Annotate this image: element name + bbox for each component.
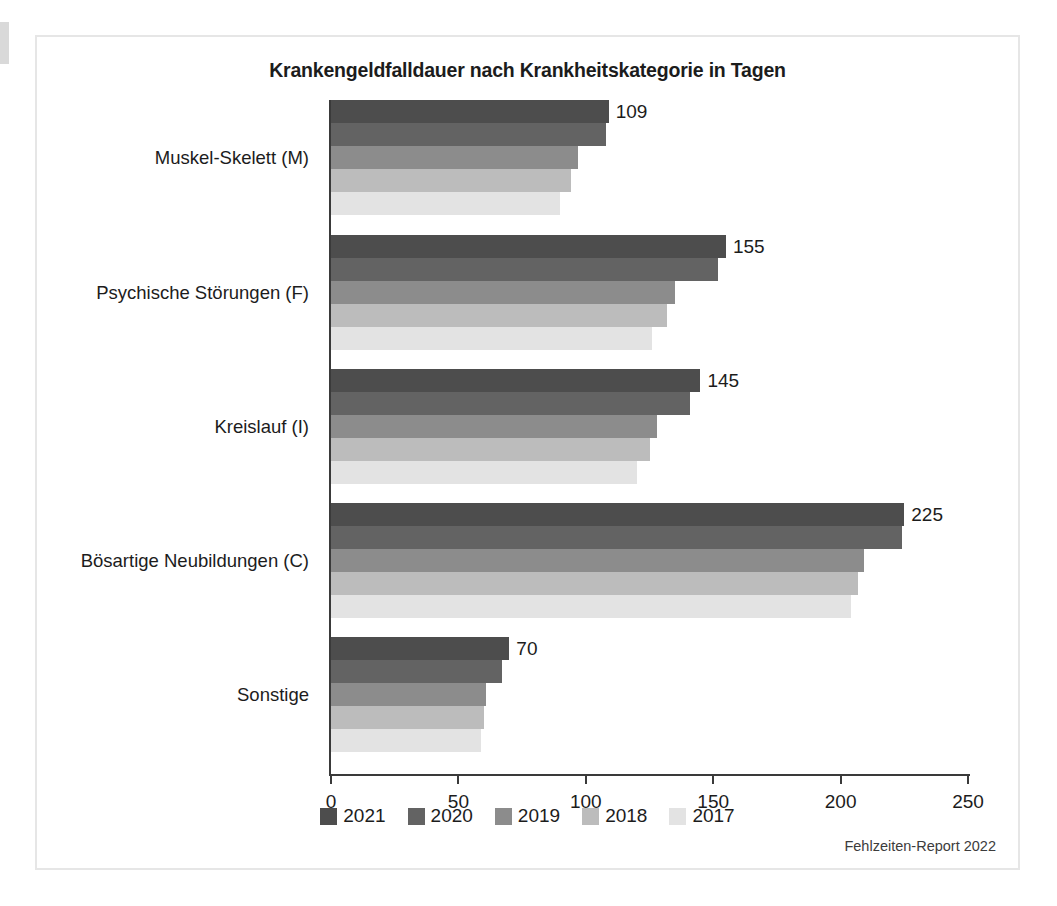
bar-group: 145Kreislauf (I) [331, 369, 968, 484]
bar-row: Psychische Störungen (F) [331, 281, 968, 304]
bar-row: 70 [331, 637, 968, 660]
bar-value-label: 109 [609, 100, 648, 122]
bar-row: Muskel-Skelett (M) [331, 146, 968, 169]
legend-item-2018[interactable]: 2018 [582, 805, 647, 827]
bar-row: 145 [331, 369, 968, 392]
bar-row: Sonstige [331, 683, 968, 706]
source-note: Fehlzeiten-Report 2022 [844, 838, 996, 854]
bar-2018[interactable] [331, 304, 667, 327]
bar-2019[interactable] [331, 146, 578, 169]
x-axis-line [329, 774, 970, 776]
bar-2020[interactable] [331, 123, 606, 146]
category-label: Sonstige [237, 684, 309, 706]
bar-row [331, 304, 968, 327]
x-tick-mark-250 [967, 775, 969, 784]
bar-row [331, 660, 968, 683]
bar-2017[interactable] [331, 729, 481, 752]
legend-item-2019[interactable]: 2019 [495, 805, 560, 827]
bar-row [331, 595, 968, 618]
bar-2021[interactable] [331, 637, 509, 660]
legend-label: 2019 [518, 805, 560, 827]
bar-2021[interactable] [331, 100, 609, 123]
bar-row [331, 123, 968, 146]
bar-group: 70Sonstige [331, 637, 968, 752]
bar-2018[interactable] [331, 706, 484, 729]
bar-2017[interactable] [331, 461, 637, 484]
bar-group: 155Psychische Störungen (F) [331, 235, 968, 350]
bar-row [331, 392, 968, 415]
chart-title: Krankengeldfalldauer nach Krankheitskate… [37, 59, 1018, 82]
bar-row: Kreislauf (I) [331, 415, 968, 438]
bar-2018[interactable] [331, 169, 571, 192]
legend-label: 2017 [692, 805, 734, 827]
legend-label: 2020 [431, 805, 473, 827]
bar-row [331, 169, 968, 192]
bar-2021[interactable] [331, 235, 726, 258]
legend-label: 2018 [605, 805, 647, 827]
legend-swatch-icon [495, 808, 512, 825]
legend-swatch-icon [582, 808, 599, 825]
bar-2019[interactable] [331, 281, 675, 304]
legend-swatch-icon [669, 808, 686, 825]
bar-row [331, 192, 968, 215]
scan-edge-artifact [0, 22, 9, 64]
category-label: Bösartige Neubildungen (C) [81, 550, 309, 572]
bar-2020[interactable] [331, 660, 502, 683]
plot-area: 050100150200250 109Muskel-Skelett (M)155… [331, 100, 968, 775]
bar-row [331, 327, 968, 350]
bar-row [331, 461, 968, 484]
category-label: Kreislauf (I) [214, 416, 309, 438]
category-label: Muskel-Skelett (M) [155, 147, 309, 169]
chart-legend: 20212020201920182017 [37, 805, 1018, 827]
bar-row [331, 258, 968, 281]
legend-label: 2021 [343, 805, 385, 827]
x-tick-mark-200 [840, 775, 842, 784]
bar-row [331, 526, 968, 549]
bar-row [331, 729, 968, 752]
bar-row [331, 706, 968, 729]
chart-figure-frame: Krankengeldfalldauer nach Krankheitskate… [35, 35, 1020, 870]
bar-group: 225Bösartige Neubildungen (C) [331, 503, 968, 618]
bar-row: Bösartige Neubildungen (C) [331, 549, 968, 572]
bar-2020[interactable] [331, 526, 902, 549]
bar-2021[interactable] [331, 503, 904, 526]
legend-swatch-icon [408, 808, 425, 825]
legend-item-2017[interactable]: 2017 [669, 805, 734, 827]
legend-swatch-icon [320, 808, 337, 825]
bar-row: 155 [331, 235, 968, 258]
bar-2019[interactable] [331, 549, 864, 572]
x-tick-mark-100 [585, 775, 587, 784]
bar-2019[interactable] [331, 415, 657, 438]
bar-value-label: 145 [700, 369, 739, 391]
bar-row [331, 438, 968, 461]
bar-2019[interactable] [331, 683, 486, 706]
bar-value-label: 155 [726, 235, 765, 257]
bar-row: 225 [331, 503, 968, 526]
bar-2018[interactable] [331, 438, 650, 461]
bar-2017[interactable] [331, 192, 560, 215]
bar-2020[interactable] [331, 392, 690, 415]
x-tick-mark-50 [457, 775, 459, 784]
bar-value-label: 70 [509, 637, 537, 659]
bar-2021[interactable] [331, 369, 700, 392]
category-label: Psychische Störungen (F) [96, 282, 309, 304]
bar-2020[interactable] [331, 258, 718, 281]
bar-row [331, 572, 968, 595]
bar-row: 109 [331, 100, 968, 123]
bar-2017[interactable] [331, 327, 652, 350]
bar-group: 109Muskel-Skelett (M) [331, 100, 968, 215]
bar-value-label: 225 [904, 503, 943, 525]
legend-item-2021[interactable]: 2021 [320, 805, 385, 827]
legend-item-2020[interactable]: 2020 [408, 805, 473, 827]
x-tick-mark-150 [712, 775, 714, 784]
bar-2017[interactable] [331, 595, 851, 618]
bar-2018[interactable] [331, 572, 858, 595]
x-tick-mark-0 [330, 775, 332, 784]
